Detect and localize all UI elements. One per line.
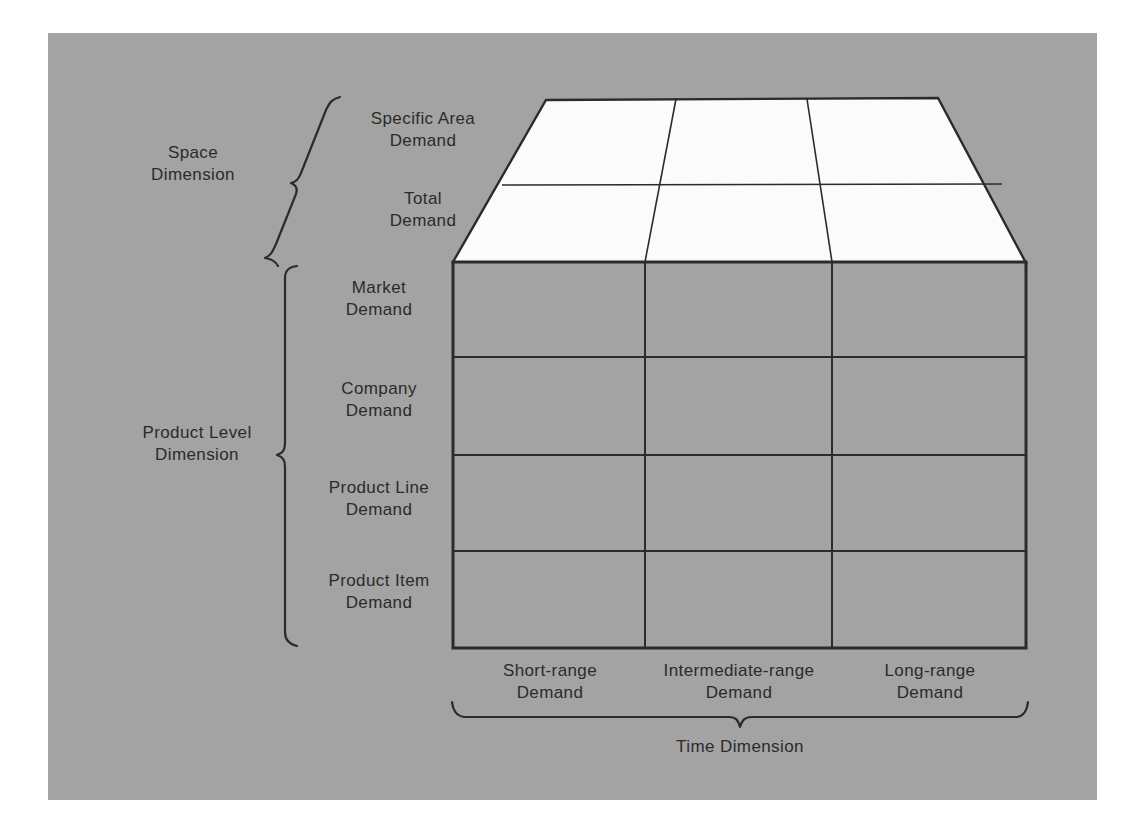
space-brace-path — [265, 97, 340, 266]
level-label-specific-area-demand: Specific Area Demand — [343, 108, 503, 152]
top-face-fill — [453, 98, 1026, 263]
time-dimension-brace — [452, 702, 1028, 727]
level-label-long-range-demand: Long-range Demand — [845, 660, 1015, 704]
level-label-company-demand: Company Demand — [303, 378, 455, 422]
level-label-market-demand: Market Demand — [303, 277, 455, 321]
time-brace-path — [452, 702, 1028, 727]
axis-title-space-dimension: Space Dimension — [118, 142, 268, 186]
axis-title-time-dimension: Time Dimension — [640, 736, 840, 758]
level-label-product-line-demand: Product Line Demand — [303, 477, 455, 521]
space-dimension-brace — [265, 97, 340, 266]
axis-title-product-level-dimension: Product Level Dimension — [112, 422, 282, 466]
top-face-row-divider — [502, 184, 1002, 185]
level-label-product-item-demand: Product Item Demand — [303, 570, 455, 614]
figure-root: Space Dimension Specific Area Demand Tot… — [0, 0, 1132, 837]
demand-cube-drawing — [0, 0, 1132, 837]
level-label-intermediate-range-demand: Intermediate-range Demand — [636, 660, 842, 704]
level-label-total-demand: Total Demand — [343, 188, 503, 232]
level-label-short-range-demand: Short-range Demand — [466, 660, 634, 704]
cube-front-face — [453, 262, 1026, 648]
cube-top-face — [453, 98, 1026, 263]
